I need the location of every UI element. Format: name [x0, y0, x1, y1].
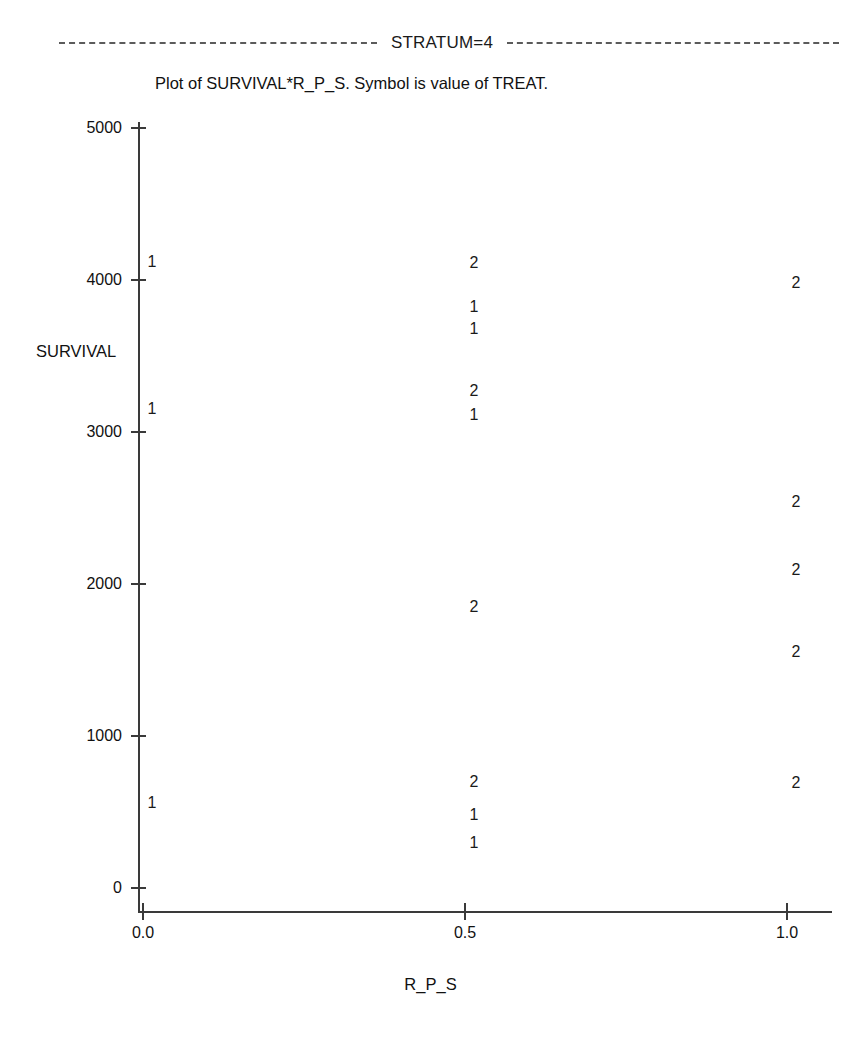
y-axis-tick: [131, 735, 146, 737]
x-axis-tick: [786, 903, 788, 920]
data-symbol: 2: [466, 383, 482, 399]
data-symbol: 1: [144, 254, 160, 270]
data-symbol: 1: [466, 835, 482, 851]
x-axis-tick: [142, 903, 144, 920]
x-axis-line: [138, 911, 832, 913]
data-symbol: 1: [466, 321, 482, 337]
y-axis-tick-label: 5000: [42, 119, 122, 137]
x-axis-tick-label: 1.0: [752, 924, 822, 942]
plot-canvas: 010002000300040005000 0.00.51.0 SURVIVAL…: [0, 0, 861, 1037]
data-symbol: 2: [466, 774, 482, 790]
data-symbol: 2: [788, 562, 804, 578]
data-symbol: 1: [466, 299, 482, 315]
y-axis-tick-label: 2000: [42, 575, 122, 593]
data-symbol: 2: [466, 255, 482, 271]
data-symbol: 1: [466, 407, 482, 423]
y-axis-tick: [131, 279, 146, 281]
x-axis-tick: [464, 903, 466, 920]
x-axis-tick-label: 0.0: [108, 924, 178, 942]
y-axis-tick: [131, 431, 146, 433]
y-axis-tick-label: 3000: [42, 423, 122, 441]
y-axis-tick-label: 1000: [42, 727, 122, 745]
y-axis-tick: [131, 583, 146, 585]
x-axis-title: R_P_S: [0, 975, 861, 994]
data-symbol: 1: [466, 807, 482, 823]
plot-page: STRATUM=4 Plot of SURVIVAL*R_P_S. Symbol…: [0, 0, 861, 1037]
data-symbol: 2: [788, 775, 804, 791]
y-axis-tick-label: 0: [42, 879, 122, 897]
y-axis-line: [138, 122, 140, 913]
y-axis-tick: [131, 127, 146, 129]
y-axis-tick: [131, 887, 146, 889]
data-symbol: 1: [144, 401, 160, 417]
y-axis-tick-label: 4000: [42, 271, 122, 289]
data-symbol: 1: [144, 795, 160, 811]
data-symbol: 2: [788, 275, 804, 291]
data-symbol: 2: [788, 494, 804, 510]
x-axis-tick-label: 0.5: [430, 924, 500, 942]
data-symbol: 2: [788, 644, 804, 660]
data-symbol: 2: [466, 599, 482, 615]
y-axis-title: SURVIVAL: [36, 342, 116, 361]
